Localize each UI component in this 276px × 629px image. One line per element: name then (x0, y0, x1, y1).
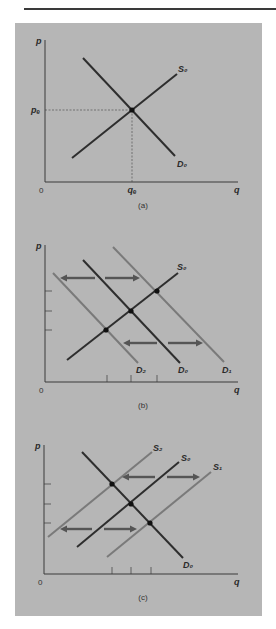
curve-label-d0: D₀ (178, 365, 188, 375)
arrow-left-icon (123, 340, 130, 347)
arrow-right-icon (133, 275, 140, 282)
supply-curve-s1 (107, 472, 211, 557)
arrow-right-icon (193, 474, 200, 481)
y-axis-label-p: p (35, 241, 42, 251)
diagram-a: pₑqₑp0qS₀D₀(a) (30, 36, 240, 210)
curve-label-s1: S₁ (213, 462, 222, 472)
caption-b: (b) (138, 401, 148, 410)
equilibrium-point (103, 327, 108, 332)
demand-curve-d2 (53, 273, 138, 363)
y-axis-label-p: p (35, 36, 42, 46)
x-axis-label-q: q (234, 185, 240, 195)
equilibrium-point (154, 288, 159, 293)
arrow-right-icon (130, 526, 137, 533)
equilibrium-point (129, 107, 134, 112)
caption-c: (c) (138, 593, 148, 602)
supply-curve-s0 (72, 74, 177, 158)
origin-label: 0 (39, 186, 44, 195)
equilibrium-point (147, 520, 152, 525)
diagram-c: p0qS₂S₀S₁D₀(c) (34, 441, 240, 602)
equilibrium-price-label: pₑ (30, 105, 40, 115)
equilibrium-quantity-label: qₑ (127, 185, 136, 195)
diagram-b: p0qD₂D₀D₁S₀(b) (35, 241, 240, 410)
curve-label-s2: S₂ (153, 443, 163, 453)
demand-curve-d0 (83, 58, 175, 156)
origin-label: 0 (38, 578, 43, 587)
curve-label-d2: D₂ (136, 365, 146, 375)
curve-label-d0: D₀ (177, 159, 187, 169)
origin-label: 0 (39, 386, 44, 395)
supply-curve-s2 (48, 452, 152, 537)
equilibrium-point (128, 308, 133, 313)
caption-a: (a) (138, 201, 148, 210)
curve-label-d0: D₀ (183, 560, 193, 570)
curve-label-s0: S₀ (177, 262, 187, 272)
x-axis-label-q: q (234, 385, 240, 395)
curve-label-s0: S₀ (178, 64, 188, 74)
equilibrium-point (128, 501, 133, 506)
curve-label-d1: D₁ (222, 365, 232, 375)
x-axis-label-q: q (234, 577, 240, 587)
curve-label-s0: S₀ (181, 453, 191, 463)
y-axis-label-p: p (34, 441, 41, 451)
supply-demand-figure: pₑqₑp0qS₀D₀(a)p0qD₂D₀D₁S₀(b)p0qS₂S₀S₁D₀(… (0, 0, 276, 629)
equilibrium-point (109, 481, 114, 486)
